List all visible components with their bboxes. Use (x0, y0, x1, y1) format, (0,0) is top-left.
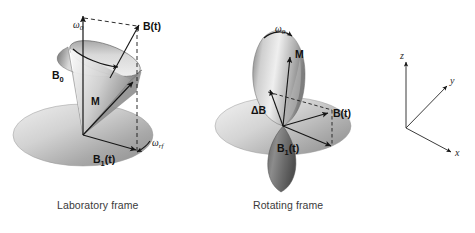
rotating-frame-panel: ω0 M ΔB B(t) B1(t) (215, 24, 351, 192)
rot-bt-label: B(t) (333, 107, 351, 119)
axis-y-line (406, 86, 447, 128)
rot-m-label: M (295, 48, 304, 60)
axis-z-label: z (399, 50, 404, 61)
axis-x-line (406, 128, 451, 152)
coordinate-axis-triad: z y x (399, 50, 460, 158)
lab-omega0-label: ω0 (73, 20, 84, 32)
lab-dashed-top-horizontal (84, 18, 137, 26)
laboratory-frame-caption: Laboratory frame (57, 199, 139, 211)
rot-deltab-label: ΔB (251, 104, 267, 116)
rotating-frame-caption: Rotating frame (253, 199, 323, 211)
laboratory-frame-panel: ω0 B(t) B0 M B1(t) ωrf (13, 16, 164, 168)
lab-omegarf-label: ωrf (152, 138, 164, 150)
axis-x-label: x (454, 147, 460, 158)
lab-bt-label: B(t) (143, 20, 161, 32)
lab-b0-label: B0 (52, 69, 64, 84)
axis-y-label: y (449, 75, 455, 86)
lab-m-label: M (91, 95, 100, 107)
